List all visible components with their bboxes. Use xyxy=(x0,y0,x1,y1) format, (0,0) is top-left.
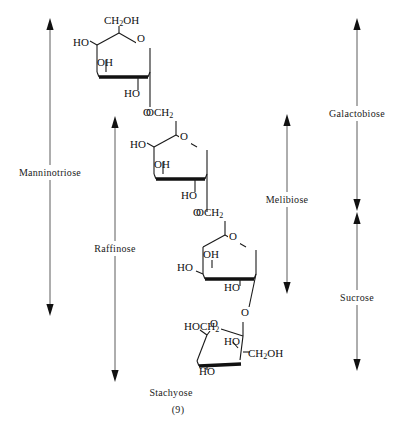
figure-caption-number: (9) xyxy=(172,404,185,416)
span-arrow-galactobiose: Galactobiose xyxy=(318,18,396,211)
label-ch2oh-galactose-terminal: CH2OH xyxy=(104,14,139,28)
ring-o-glucose: O xyxy=(229,230,237,242)
bond-c4-c3 xyxy=(97,72,99,77)
bond2-c4-c3 xyxy=(154,174,156,179)
stem3-ho-c4 xyxy=(196,271,203,274)
arrow-head-top-galactobiose xyxy=(353,18,360,30)
span-arrow-sucrose: Sucrose xyxy=(330,212,384,371)
label-oh-glucose-c3: OH xyxy=(203,248,219,260)
label-ho-galactose-terminal-c4: HO xyxy=(73,36,89,48)
span-label-raffinose: Raffinose xyxy=(94,243,136,254)
span-label-galactobiose: Galactobiose xyxy=(329,108,385,119)
label-ho-glucose-c2: HO xyxy=(224,281,240,293)
glycosidic-o-3: O xyxy=(241,306,249,318)
label-oh-galactose-terminal-c3: OH xyxy=(97,56,113,68)
label-ho-galactose-terminal-c2: HO xyxy=(124,87,140,99)
label-och2-galactose-internal: OCH2 xyxy=(146,106,173,120)
stachyose-structure-figure: O O O O O O O CH2OH HO OH HO OCH2 HO OH … xyxy=(0,0,406,429)
span-arrow-melibiose: Melibiose xyxy=(256,114,318,294)
label-ho-galactose-internal-c4: HO xyxy=(130,138,146,150)
bond3-c5-c6ring xyxy=(203,235,225,247)
arrow-head-bottom-melibiose xyxy=(283,282,290,294)
ring-o-galactose-internal: O xyxy=(180,130,188,142)
arrow-head-top-sucrose xyxy=(353,212,360,224)
ring-o-galactose-terminal: O xyxy=(137,32,145,44)
arrow-head-bottom-raffinose xyxy=(111,370,118,382)
arrow-head-bottom-manninotriose xyxy=(46,304,53,316)
bond3-c4-c3 xyxy=(203,274,205,279)
substituent-labels: CH2OH HO OH HO OCH2 HO OH HO OCH2 OH HO … xyxy=(73,14,283,377)
label-oh-galactose-internal-c3: OH xyxy=(154,158,170,170)
label-ho-fructose-c4: HO xyxy=(199,365,215,377)
bond4-c2-c3 xyxy=(240,336,243,360)
label-ho-glucose-c4: HO xyxy=(177,261,193,273)
label-hoch2-fructose: HOCH2 xyxy=(184,320,219,334)
span-label-melibiose: Melibiose xyxy=(266,194,309,205)
span-arrow-raffinose: Raffinose xyxy=(84,116,146,382)
arrow-head-top-melibiose xyxy=(283,114,290,126)
arrow-head-bottom-sucrose xyxy=(353,359,360,371)
stem-ho-c4 xyxy=(90,41,97,45)
figure-caption-name: Stachyose xyxy=(149,387,193,398)
span-label-sucrose: Sucrose xyxy=(340,292,374,303)
arrow-head-top-manninotriose xyxy=(46,18,53,30)
label-och2-glucose: OCH2 xyxy=(196,206,223,220)
bond2-c5-c6ring xyxy=(154,135,176,147)
label-ho-fructose-c3: HO xyxy=(224,335,240,347)
arrow-head-top-raffinose xyxy=(111,116,118,128)
label-ch2oh-fructose: CH2OH xyxy=(248,347,283,361)
bond-c5-c6ring xyxy=(97,33,119,45)
bond4-c5-c4 xyxy=(197,335,207,361)
arrow-head-bottom-galactobiose xyxy=(353,199,360,211)
label-ho-galactose-internal-c2: HO xyxy=(181,189,197,201)
span-arrow-manninotriose: Manninotriose xyxy=(8,18,92,316)
span-label-manninotriose: Manninotriose xyxy=(19,167,81,178)
stem2-ho-c4 xyxy=(147,143,154,147)
residue-glucose xyxy=(196,221,256,312)
